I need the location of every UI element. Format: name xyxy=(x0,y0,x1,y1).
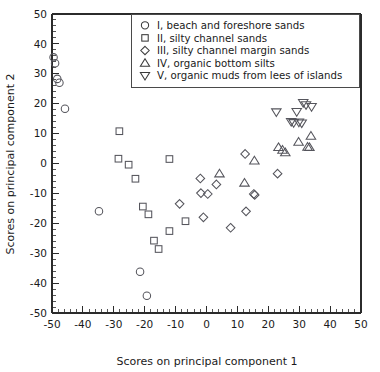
data-point xyxy=(226,223,235,232)
x-tick-label: 40 xyxy=(323,318,336,330)
x-tick-label: 0 xyxy=(203,318,210,330)
data-point xyxy=(175,200,184,209)
legend-item-label: I, beach and foreshore sands xyxy=(157,20,304,31)
x-tick-label: -20 xyxy=(136,318,153,330)
data-point xyxy=(196,174,205,183)
data-point xyxy=(250,156,260,164)
data-point xyxy=(136,268,143,275)
data-point xyxy=(145,211,152,218)
data-point xyxy=(212,180,221,189)
data-point xyxy=(143,292,150,299)
data-point xyxy=(116,128,123,135)
y-tick-label: 10 xyxy=(34,127,47,139)
y-tick-label: -40 xyxy=(30,277,47,289)
x-tick-label: 10 xyxy=(231,318,244,330)
data-point xyxy=(241,150,250,159)
y-tick-label: 40 xyxy=(34,38,47,50)
legend-item-label: IV, organic bottom silts xyxy=(157,58,275,69)
data-point xyxy=(307,103,317,111)
data-point xyxy=(182,218,189,225)
y-tick-label: -10 xyxy=(30,187,47,199)
x-tick-label: -40 xyxy=(74,318,91,330)
data-point xyxy=(155,246,162,253)
y-tick-label: -30 xyxy=(30,247,47,259)
y-tick-label: 20 xyxy=(34,97,47,109)
x-tick-label: -50 xyxy=(43,318,60,330)
data-point xyxy=(115,155,122,162)
legend-item-label: III, silty channel margin sands xyxy=(157,45,309,56)
data-point xyxy=(306,132,316,140)
plot-svg: -50-40-30-20-1001020304050 -50-40-30-20-… xyxy=(0,0,380,372)
series-group xyxy=(175,150,282,232)
y-tick-label: -50 xyxy=(30,307,47,319)
data-point xyxy=(125,161,132,168)
scatter-plot-figure: -50-40-30-20-1001020304050 -50-40-30-20-… xyxy=(0,0,380,372)
legend-item-label: II, silty channel sands xyxy=(157,33,267,44)
y-tick-labels: -50-40-30-20-1001020304050 xyxy=(30,8,47,319)
data-point xyxy=(242,207,251,216)
data-point xyxy=(166,156,173,163)
y-tick-label: 0 xyxy=(40,157,47,169)
legend-item-label: V, organic muds from lees of islands xyxy=(157,70,342,81)
data-point xyxy=(199,213,208,222)
chart-legend: I, beach and foreshore sandsII, silty ch… xyxy=(131,14,359,87)
x-tick-label: -30 xyxy=(105,318,122,330)
y-tick-label: 50 xyxy=(34,8,47,20)
series-group xyxy=(272,100,317,128)
data-point xyxy=(61,105,68,112)
data-point xyxy=(272,109,282,117)
series-group xyxy=(215,132,316,187)
x-tick-label: 30 xyxy=(293,318,306,330)
data-point xyxy=(292,109,302,117)
x-tick-label: -10 xyxy=(167,318,184,330)
series-group xyxy=(50,54,151,300)
data-point xyxy=(151,237,158,244)
data-point xyxy=(273,169,282,178)
x-axis-title: Scores on principal component 1 xyxy=(117,355,298,368)
data-point xyxy=(132,175,139,182)
y-axis-title: Scores on principal component 2 xyxy=(4,74,17,255)
y-tick-label: 30 xyxy=(34,67,47,79)
data-point xyxy=(294,138,304,146)
x-tick-labels: -50-40-30-20-1001020304050 xyxy=(43,318,367,330)
data-point xyxy=(215,169,225,177)
x-tick-label: 20 xyxy=(262,318,275,330)
series-group xyxy=(115,128,189,252)
data-markers xyxy=(50,54,317,300)
data-point xyxy=(166,228,173,235)
x-tick-label: 50 xyxy=(354,318,367,330)
data-point xyxy=(240,178,250,186)
y-tick-label: -20 xyxy=(30,217,47,229)
data-point xyxy=(95,208,102,215)
data-point xyxy=(140,203,147,210)
